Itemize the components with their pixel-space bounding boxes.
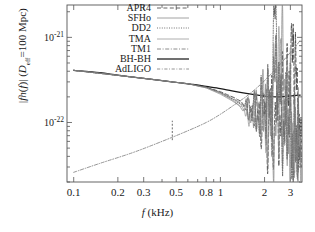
legend-label: AdLIGO [89, 64, 156, 74]
legend-line-sample [156, 34, 192, 44]
y-tick-label: 10-21 [18, 30, 64, 43]
legend-item-adligo: AdLIGO [89, 64, 197, 74]
legend-line-sample [156, 54, 192, 64]
x-axis-label: f (kHz) [0, 206, 315, 218]
legend: APR4SFHoDD2TMATM1BH-BHAdLIGO [89, 3, 197, 74]
x-tick-label: 0.1 [60, 186, 88, 198]
legend-line-sample [156, 13, 192, 23]
figure: |fh(f)| (Deff=100 Mpc) f (kHz) 10-2110-2… [0, 0, 315, 232]
legend-label: DD2 [89, 23, 156, 33]
x-tick-label: 1 [206, 186, 234, 198]
x-tick-label: 0.5 [162, 186, 190, 198]
x-tick-label: 3 [276, 186, 304, 198]
legend-line-sample [156, 44, 192, 54]
legend-line-sample [156, 23, 192, 33]
x-tick-label: 2 [251, 186, 279, 198]
y-tick-label: 10-22 [18, 115, 64, 128]
x-tick-label: 0.2 [104, 186, 132, 198]
x-tick-label: 0.3 [130, 186, 158, 198]
legend-line-sample [156, 3, 192, 13]
legend-line-sample [156, 64, 192, 74]
